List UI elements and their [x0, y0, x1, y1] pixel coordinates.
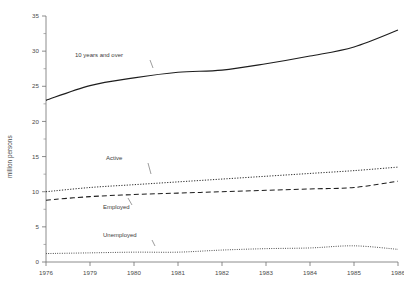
leader-line-unemployed	[152, 240, 155, 246]
x-tick-label-1976: 1976	[39, 269, 53, 276]
x-tick-label-1981: 1981	[171, 269, 185, 276]
leader-line-active	[148, 163, 151, 174]
line-chart: 05101520253035 million persons 197619791…	[0, 0, 404, 296]
x-axis-tick-labels: 197619791980198119821983198419851986	[39, 269, 404, 276]
y-tick-label-25: 25	[32, 82, 39, 89]
series-label-total: 10 years and over	[75, 52, 123, 58]
series-line-10-years-and-over	[46, 30, 398, 100]
y-axis-title: million persons	[6, 135, 14, 178]
series-line-unemployed	[46, 246, 398, 254]
x-tick-label-1984: 1984	[303, 269, 317, 276]
x-tick-label-1980: 1980	[127, 269, 141, 276]
y-tick-label-15: 15	[32, 153, 39, 160]
series-label-unemployed: Unemployed	[103, 232, 137, 238]
y-axis-ticks	[42, 16, 46, 262]
y-tick-label-35: 35	[32, 12, 39, 19]
y-axis: 05101520253035 million persons	[6, 12, 46, 265]
series-label-active: Active	[106, 155, 123, 161]
x-axis-ticks	[46, 262, 398, 266]
y-tick-label-30: 30	[32, 47, 39, 54]
y-axis-tick-labels: 05101520253035	[32, 12, 39, 265]
series-label-employed: Employed	[103, 204, 130, 210]
x-tick-label-1982: 1982	[215, 269, 229, 276]
y-tick-label-5: 5	[36, 223, 40, 230]
y-tick-label-20: 20	[32, 118, 39, 125]
x-tick-label-1979: 1979	[83, 269, 97, 276]
x-axis: 197619791980198119821983198419851986	[39, 262, 404, 276]
y-tick-label-10: 10	[32, 188, 39, 195]
series-paths	[46, 30, 398, 254]
leader-line-total	[150, 60, 153, 68]
x-tick-label-1985: 1985	[347, 269, 361, 276]
series-line-employed	[46, 181, 398, 200]
y-tick-label-0: 0	[36, 258, 40, 265]
x-tick-label-1983: 1983	[259, 269, 273, 276]
x-tick-label-1986: 1986	[391, 269, 404, 276]
chart-container: 05101520253035 million persons 197619791…	[0, 0, 404, 296]
